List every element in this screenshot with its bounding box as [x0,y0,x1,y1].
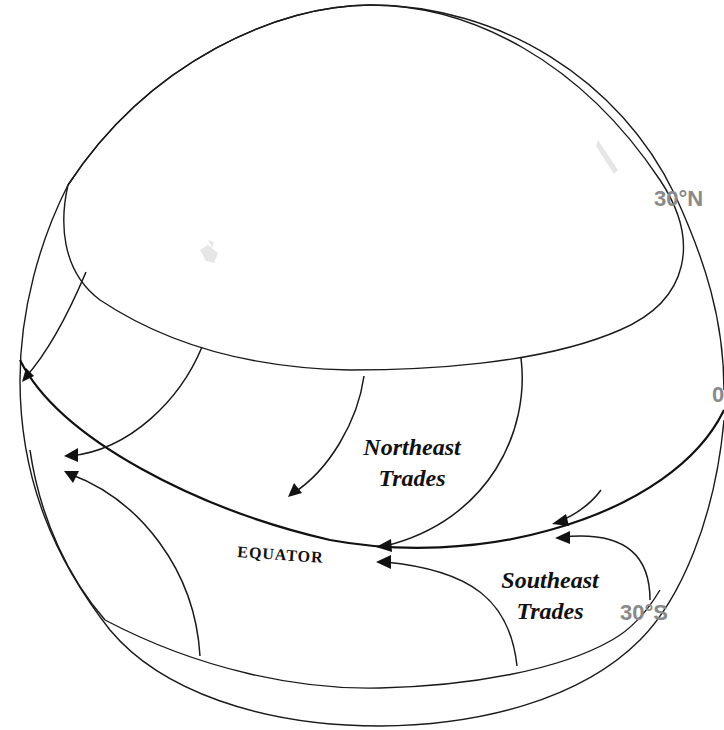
southeast-trades-label: Southeast Trades [490,565,610,627]
arrowhead-icon [288,483,302,497]
northeast-trades-line2: Trades [352,463,472,494]
se-trade-arrow-1 [70,474,200,656]
globe-outline [20,5,724,726]
northeast-trades-label: Northeast Trades [352,432,472,494]
arrowhead-icon [64,448,78,462]
latitude-30n-line [64,5,684,370]
arrowhead-icon [376,555,391,569]
latitude-30s-label: 30°S [620,600,668,626]
landmass-hint [200,140,618,263]
globe-diagram [0,0,724,730]
arrowhead-icon [552,514,569,526]
ne-trade-arrow-2 [70,347,202,456]
latitude-0-label: 0 [712,382,724,408]
ne-trade-arrow-1 [25,272,86,378]
southeast-trades-line2: Trades [490,596,610,627]
latitude-30n-label: 30°N [654,186,703,212]
arrowhead-icon [555,531,570,544]
northeast-trades-line1: Northeast [352,432,472,463]
southeast-trades-line1: Southeast [490,565,610,596]
